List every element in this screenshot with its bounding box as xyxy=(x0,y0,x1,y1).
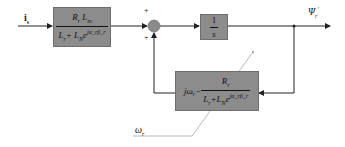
block-integrator: 1 s xyxy=(200,14,228,40)
output-label: Ψr' xyxy=(308,6,319,19)
speed-label: ωr xyxy=(135,124,144,137)
sum-sign-top: + xyxy=(144,6,149,15)
block-feedback: jωr − Rr Lr+LNejα_rβ_r xyxy=(175,71,259,111)
diagram-wires xyxy=(0,0,345,147)
block-gain: Rr Lm Lr+ LNejα_rβ_r xyxy=(53,7,111,47)
input-label: is xyxy=(24,12,29,25)
sum-sign-bottom: + xyxy=(144,33,149,42)
summing-junction xyxy=(148,20,160,32)
